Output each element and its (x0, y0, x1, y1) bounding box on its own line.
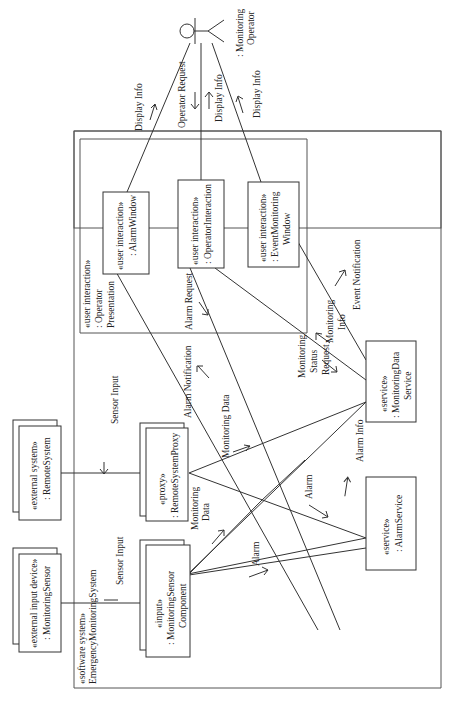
alarm-window-stereotype: «user interaction» (115, 201, 125, 270)
msg-monitoring-status-2: Status (309, 349, 319, 373)
msg-operator-request: Operator Request (177, 61, 187, 128)
event-window-name2: Window (282, 213, 292, 245)
monitoring-service-name1: : MonitoringData (391, 351, 401, 418)
actor-monitoring-operator[interactable] (180, 18, 224, 44)
actor-label-2: Operator (246, 10, 256, 45)
system-name: EmergencyMonitoringSystem (88, 569, 98, 684)
msg-alarm-2: Alarm (251, 541, 261, 566)
alarm-window-box[interactable]: «user interaction» : AlarmWindow (103, 192, 149, 274)
sensor-component-stereotype: «input» (154, 599, 164, 628)
arrow-icon (236, 96, 243, 113)
monitoring-data-service-box[interactable]: «service» : MonitoringData Service (366, 341, 416, 422)
msg-alarm-request: Alarm Request (184, 272, 194, 330)
msg-display-info-2: Display Info (214, 74, 224, 122)
msg-alarm-notification: Alarm Notification (183, 345, 193, 418)
actor-label-1: : Monitoring (235, 8, 245, 57)
sensor-component-name1: : MonitoringSensor (166, 570, 176, 645)
arrow-icon (338, 477, 354, 497)
msg-sensor-input-2: Sensor Input (115, 536, 125, 585)
monitoring-sensor-box[interactable]: «external input device» : MonitoringSens… (13, 548, 61, 652)
arrow-icon (335, 270, 346, 286)
monitoring-sensor-stereotype: «external input device» (29, 559, 39, 648)
proxy-name: : RemoteSystemProxy (170, 433, 180, 518)
alarm-service-box[interactable]: «service» : AlarmService (366, 477, 416, 570)
msg-monitoring-data-2a: Monitoring (190, 486, 200, 530)
msg-display-info-3: Display Info (252, 70, 262, 118)
presentation-name2: Presentation (106, 281, 116, 328)
arrow-icon (205, 92, 213, 109)
proxy-stereotype: «proxy» (157, 473, 167, 505)
alarm-window-name: : AlarmWindow (128, 195, 138, 256)
operator-interaction-box[interactable]: «user interaction» : OperatorInteraction (178, 180, 224, 268)
remote-system-box[interactable]: «external system» : RemoteSystem (13, 420, 61, 520)
msg-monitoring-status-1: Monitoring (297, 334, 307, 378)
arrow-icon (249, 567, 268, 577)
msg-event-notification: Event Notification (352, 239, 362, 310)
sensor-component-name2: Component (178, 583, 188, 628)
arrow-icon (197, 366, 209, 378)
msg-sensor-input-1: Sensor Input (110, 375, 120, 424)
event-monitoring-window-box[interactable]: «user interaction» : EventMonitoring Win… (248, 182, 299, 267)
alarm-service-stereotype: «service» (381, 518, 391, 555)
remote-system-stereotype: «external system» (29, 441, 39, 510)
msg-monitoring-data-2b: Data (201, 502, 211, 521)
msg-monitoring-status-3: Request (321, 344, 331, 375)
monitoring-sensor-component-box[interactable]: «input» : MonitoringSensor Component (140, 540, 190, 657)
communication-diagram: «user interaction» : AlarmWindow «user i… (0, 0, 450, 703)
event-window-stereotype: «user interaction» (258, 193, 268, 262)
event-window-name1: : EventMonitoring (270, 191, 280, 262)
presentation-name1: : Operator (94, 288, 104, 328)
arrow-icon (100, 462, 108, 474)
msg-monitoring-info-1: Monitoring (325, 299, 335, 343)
message-arrows (100, 92, 354, 600)
remote-system-proxy-box[interactable]: «proxy» : RemoteSystemProxy (140, 423, 188, 521)
operator-interaction-stereotype: «user interaction» (190, 196, 200, 265)
system-stereotype: «software system» (77, 613, 87, 684)
arrow-icon (212, 530, 224, 544)
msg-alarm-info: Alarm Info (355, 419, 365, 462)
presentation-stereotype: «user interaction» (82, 259, 92, 328)
msg-monitoring-data-1: Monitoring Data (221, 394, 231, 458)
arrow-icon (191, 92, 199, 109)
msg-display-info-1: Display Info (134, 83, 144, 131)
arrow-icon (150, 104, 157, 120)
remote-system-name: : RemoteSystem (42, 437, 52, 500)
msg-alarm-1: Alarm (304, 474, 314, 499)
monitoring-service-stereotype: «service» (379, 375, 389, 412)
arrow-icon (233, 445, 250, 452)
msg-monitoring-info-2: Info (337, 314, 347, 330)
alarm-service-name: : AlarmService (394, 495, 404, 552)
operator-interaction-name: : OperatorInteraction (203, 184, 213, 264)
arrow-icon (309, 505, 328, 518)
monitoring-sensor-name: : MonitoringSensor (42, 565, 52, 640)
monitoring-service-name2: Service (403, 372, 413, 401)
